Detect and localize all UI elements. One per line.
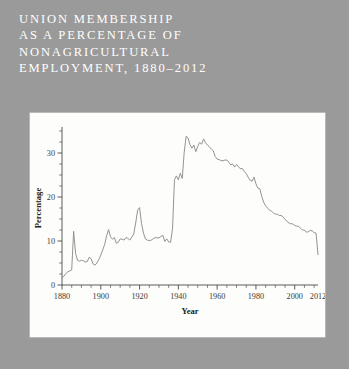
- y-axis-tick-labels: 0102030: [47, 149, 55, 290]
- y-tick-label: 10: [47, 237, 55, 246]
- screenshot-root: UNION MEMBERSHIP AS A PERCENTAGE OF NONA…: [0, 0, 349, 369]
- title-line-3: NONAGRICULTURAL: [19, 44, 319, 60]
- title-line-1: UNION MEMBERSHIP: [19, 11, 319, 27]
- x-tick-label: 1900: [93, 292, 109, 301]
- x-tick-label: 2000: [287, 292, 303, 301]
- y-tick-label: 30: [47, 149, 55, 158]
- title-line-4: EMPLOYMENT, 1880–2012: [19, 60, 319, 76]
- x-tick-label: 2012: [310, 292, 325, 301]
- union-membership-series: [62, 136, 318, 277]
- line-chart: 0102030 18801900192019401960198020002012…: [30, 113, 325, 337]
- x-tick-label: 1940: [170, 292, 186, 301]
- x-tick-label: 1980: [248, 292, 264, 301]
- title-line-2: AS A PERCENTAGE OF: [19, 27, 319, 43]
- y-tick-label: 0: [51, 281, 55, 290]
- x-axis-title: Year: [181, 306, 198, 316]
- y-axis-title: Percentage: [33, 188, 43, 229]
- chart-panel: 0102030 18801900192019401960198020002012…: [30, 113, 325, 337]
- y-tick-label: 20: [47, 193, 55, 202]
- x-tick-label: 1880: [54, 292, 70, 301]
- page-title: UNION MEMBERSHIP AS A PERCENTAGE OF NONA…: [19, 11, 319, 77]
- x-tick-label: 1920: [131, 292, 147, 301]
- x-axis-ticks: [62, 285, 314, 290]
- y-axis-ticks: [58, 131, 63, 285]
- x-tick-label: 1960: [209, 292, 225, 301]
- x-axis-tick-labels: 18801900192019401960198020002012: [54, 292, 325, 301]
